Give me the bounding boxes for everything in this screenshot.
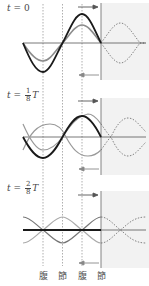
time-fraction: 18 bbox=[25, 88, 31, 103]
panel-t2-8 bbox=[23, 191, 149, 268]
shaded-region bbox=[101, 3, 149, 80]
left-arrow-icon bbox=[79, 261, 99, 265]
label-node-2: 節 bbox=[95, 269, 107, 282]
time-label-t2-8: t = 28T bbox=[7, 181, 38, 196]
time-label-prefix: t = bbox=[7, 183, 24, 193]
right-arrow-icon bbox=[78, 193, 98, 197]
panel-t1-8 bbox=[23, 98, 149, 175]
time-label-t1-8: t = 18T bbox=[7, 88, 38, 103]
right-arrow-icon bbox=[78, 99, 98, 103]
label-node-1: 節 bbox=[57, 269, 69, 282]
right-arrow-icon bbox=[78, 5, 98, 9]
time-label-prefix: t = bbox=[7, 3, 24, 13]
standing-wave-diagram bbox=[0, 0, 149, 286]
time-label-suffix: T bbox=[32, 90, 38, 100]
left-arrow-icon bbox=[79, 73, 99, 77]
reflected-wave bbox=[23, 124, 101, 156]
time-label-suffix: T bbox=[32, 183, 38, 193]
fraction-denominator: 8 bbox=[26, 96, 30, 103]
time-label-prefix: t = bbox=[7, 90, 24, 100]
time-fraction: 28 bbox=[25, 181, 31, 196]
fraction-denominator: 8 bbox=[26, 189, 30, 196]
label-antinode-2: 腹 bbox=[76, 269, 88, 282]
shaded-region bbox=[101, 98, 149, 175]
panel-t0 bbox=[23, 3, 149, 80]
label-antinode-1: 腹 bbox=[37, 269, 49, 282]
left-arrow-icon bbox=[79, 167, 99, 171]
time-label-t0: t = 0 bbox=[7, 4, 30, 13]
shaded-region bbox=[101, 191, 149, 268]
time-label-value: 0 bbox=[24, 3, 30, 13]
